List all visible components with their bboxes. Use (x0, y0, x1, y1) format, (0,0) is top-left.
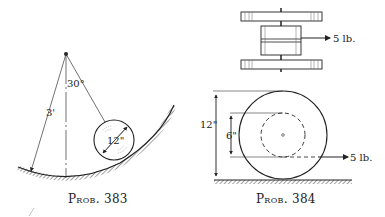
top-force-label: 5 lb. (333, 33, 355, 44)
outer-diameter-label: 12" (200, 119, 217, 130)
outer-wheel (239, 91, 327, 179)
prob-384-top-view (241, 8, 330, 72)
caption-prob-383: Prob. 383 (68, 192, 128, 206)
side-force-label: 5 lb. (350, 152, 372, 163)
hub-drum (261, 26, 301, 55)
diagram-canvas: 3' 30° 12" 5 lb. (0, 0, 385, 217)
bottom-wheel-rim (241, 60, 322, 69)
ball-diameter-label: 12" (107, 135, 124, 146)
caption-prob-384: Prob. 384 (256, 192, 316, 206)
top-wheel-rim (241, 12, 322, 21)
inner-diameter-label: 6" (226, 130, 237, 141)
prob-383-figure (18, 52, 174, 178)
angle-label: 30° (67, 78, 85, 89)
radius-label: 3' (46, 107, 55, 118)
